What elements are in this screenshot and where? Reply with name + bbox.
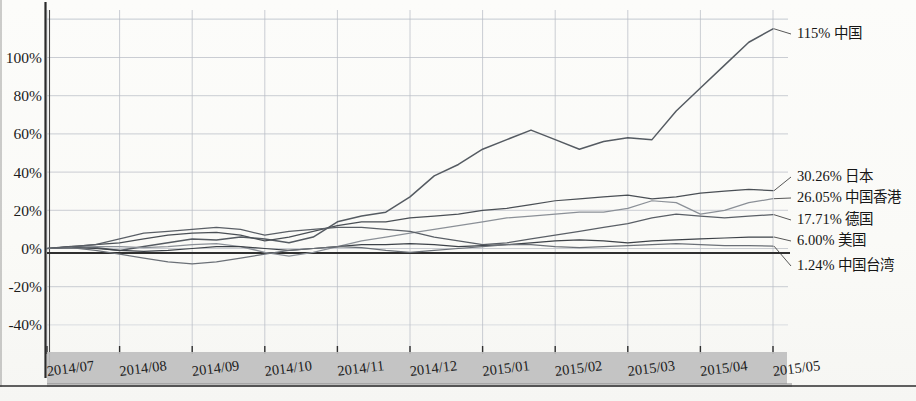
series-end-label: 6.00% 美国 [797, 232, 866, 248]
x-axis-tick-label: 2014/08 [118, 357, 167, 379]
series-end-label: 30.26% 日本 [797, 168, 873, 184]
x-axis-tick-label: 2014/11 [336, 357, 385, 379]
x-axis-tick-label: 2014/12 [409, 357, 458, 379]
x-axis-tick-label: 2014/10 [264, 357, 313, 379]
x-axis-tick-label: 2015/02 [554, 357, 603, 379]
x-axis-tick-label: 2015/01 [481, 357, 530, 379]
label-overlay-svg: 2014/072014/082014/092014/102014/112014/… [0, 0, 916, 401]
x-axis-tick-label: 2015/05 [772, 357, 821, 379]
x-axis-tick-label: 2014/07 [46, 357, 95, 379]
x-axis-tick-label: 2015/04 [699, 357, 749, 379]
figure-bottom-border [0, 385, 916, 387]
x-axis-tick-labels: 2014/072014/082014/092014/102014/112014/… [46, 357, 821, 379]
x-axis-tick-label: 2015/03 [627, 357, 676, 379]
chart-container: 100%80%60%40%20%0%-20%-40% 2014/072014/0… [0, 0, 916, 401]
series-end-label: 115% 中国 [797, 25, 862, 41]
series-end-label: 17.71% 德国 [797, 211, 873, 227]
x-axis-tick-label: 2014/09 [191, 357, 240, 379]
series-end-labels: 115% 中国30.26% 日本26.05% 中国香港17.71% 德国6.00… [797, 25, 902, 273]
series-end-label: 26.05% 中国香港 [797, 189, 902, 205]
series-end-label: 1.24% 中国台湾 [797, 257, 894, 273]
figure-left-border [0, 0, 2, 387]
